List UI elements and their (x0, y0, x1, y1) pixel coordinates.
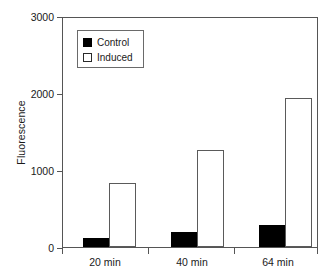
bar-control-64min (259, 225, 285, 247)
x-tick-mark-1 (148, 248, 149, 254)
y-tick-label-0: 0 (8, 243, 54, 254)
y-tick-mark-1000 (57, 171, 63, 172)
legend-label-induced: Induced (97, 52, 133, 63)
x-tick-label-40min: 40 min (157, 256, 227, 268)
filled-square-icon (83, 38, 92, 47)
y-tick-mark-3000 (57, 17, 63, 18)
y-tick-label-1000: 1000 (8, 166, 54, 177)
x-tick-mark-2 (234, 248, 235, 254)
legend-entry-control: Control (83, 35, 139, 49)
x-tick-label-20min: 20 min (70, 256, 140, 268)
y-axis-title: Fluorescence (14, 17, 28, 248)
bar-induced-20min (109, 183, 136, 247)
bar-induced-40min (197, 150, 224, 247)
bar-induced-64min (285, 98, 312, 247)
x-tick-mark-left (62, 248, 63, 254)
y-tick-label-2000: 2000 (8, 89, 54, 100)
y-tick-mark-2000 (57, 94, 63, 95)
x-tick-label-64min: 64 min (243, 256, 313, 268)
bar-control-40min (171, 232, 197, 247)
chart-legend: Control Induced (77, 30, 144, 68)
bar-control-20min (83, 238, 109, 247)
fluorescence-bar-chart: Fluorescence 0 1000 2000 3000 20 min 40 … (0, 0, 336, 277)
legend-entry-induced: Induced (83, 50, 139, 64)
legend-label-control: Control (97, 37, 129, 48)
x-tick-mark-right (317, 248, 318, 254)
y-tick-label-3000: 3000 (8, 12, 54, 23)
hollow-square-icon (83, 53, 92, 62)
